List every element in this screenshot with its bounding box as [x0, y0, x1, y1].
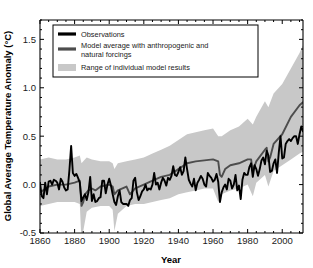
- chart-legend: Observations Model average with anthropo…: [53, 25, 258, 77]
- x-tick-label: 1920: [133, 235, 154, 246]
- legend-label-model-average-line1: Model average with anthropogenic and: [81, 41, 208, 50]
- temperature-anomaly-chart: 18601880190019201940196019802000 -0.50.0…: [0, 0, 313, 268]
- y-axis-title: Global Average Temperature Anomaly (°C): [2, 31, 13, 222]
- legend-label-observations: Observations: [81, 30, 125, 39]
- x-axis-title: Year: [161, 254, 181, 265]
- x-tick-label: 2000: [272, 235, 293, 246]
- x-tick-label: 1960: [202, 235, 223, 246]
- x-tick-label: 1940: [168, 235, 189, 246]
- figure-panel-a: A 18601880190019201940196019802000 -0.50…: [0, 0, 313, 268]
- y-tick-label: 1.0: [23, 82, 36, 93]
- legend-swatch-model-range: [58, 64, 76, 71]
- x-tick-label: 1980: [237, 235, 258, 246]
- legend-label-model-average-line2: natural forcings: [81, 50, 132, 59]
- legend-label-model-range: Range of individual model results: [81, 63, 190, 72]
- y-tick-label: 1.5: [23, 34, 36, 45]
- y-tick-label: -0.5: [20, 227, 36, 238]
- x-tick-label: 1880: [64, 235, 85, 246]
- x-tick-label: 1900: [99, 235, 120, 246]
- y-tick-label: 0.5: [23, 131, 36, 142]
- y-tick-label: 0.0: [23, 179, 36, 190]
